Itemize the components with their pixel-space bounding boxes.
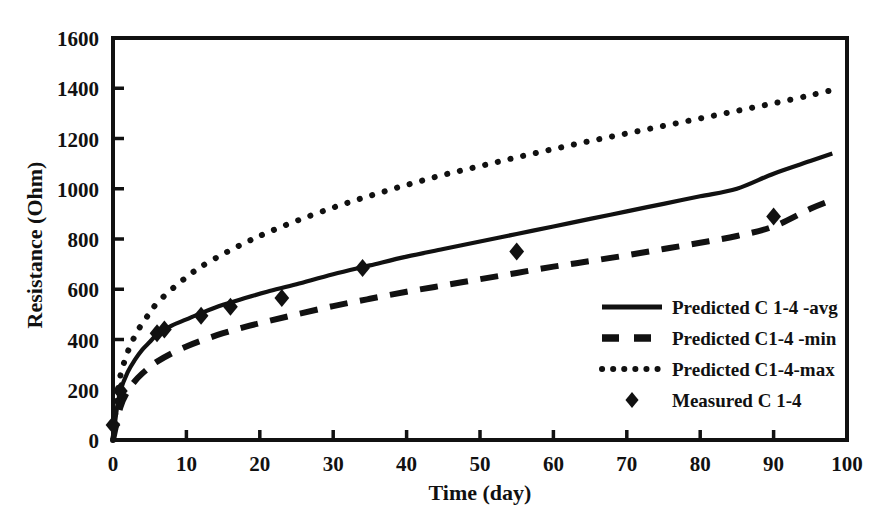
- legend-marker-diamond: [625, 392, 638, 408]
- measured-point: [766, 207, 781, 225]
- x-tick-label-30: 30: [323, 452, 344, 476]
- y-tick-label-1600: 1600: [57, 27, 99, 51]
- y-tick-label-400: 400: [68, 329, 100, 353]
- x-axis-title: Time (day): [429, 480, 532, 505]
- measured-point: [355, 259, 370, 277]
- x-tick-label-60: 60: [543, 452, 564, 476]
- x-tick-label-40: 40: [396, 452, 417, 476]
- x-tick-label-80: 80: [690, 452, 711, 476]
- x-tick-label-50: 50: [470, 452, 491, 476]
- legend-label-0: Predicted C 1-4 -avg: [672, 297, 838, 318]
- x-tick-label-90: 90: [763, 452, 784, 476]
- x-axis-tick-labels: 0102030405060708090100: [108, 452, 863, 476]
- y-tick-label-600: 600: [68, 278, 100, 302]
- y-tick-label-1200: 1200: [57, 128, 99, 152]
- y-tick-label-1400: 1400: [57, 77, 99, 101]
- y-axis-tick-labels: 02004006008001000120014001600: [57, 27, 99, 453]
- y-tick-label-800: 800: [68, 228, 100, 252]
- resistance-vs-time-chart: 02004006008001000120014001600 0102030405…: [0, 0, 889, 524]
- measured-point: [509, 243, 524, 261]
- measured-point: [106, 416, 121, 434]
- series-line-2: [113, 88, 840, 440]
- y-tick-label-1000: 1000: [57, 178, 99, 202]
- x-tick-label-10: 10: [176, 452, 197, 476]
- chart-legend: Predicted C 1-4 -avgPredicted C1-4 -minP…: [602, 297, 838, 411]
- series-group: [113, 88, 840, 440]
- measured-point: [274, 289, 289, 307]
- legend-label-1: Predicted C1-4 -min: [672, 328, 837, 349]
- y-axis-title: Resistance (Ohm): [22, 162, 47, 329]
- chart-container: 02004006008001000120014001600 0102030405…: [0, 0, 889, 524]
- y-tick-label-200: 200: [68, 379, 100, 403]
- legend-label-3: Measured C 1-4: [672, 390, 802, 411]
- x-tick-label-0: 0: [108, 452, 119, 476]
- x-tick-label-20: 20: [249, 452, 270, 476]
- y-tick-label-0: 0: [89, 429, 100, 453]
- x-tick-label-100: 100: [831, 452, 863, 476]
- x-tick-label-70: 70: [616, 452, 637, 476]
- legend-label-2: Predicted C1-4-max: [672, 359, 835, 380]
